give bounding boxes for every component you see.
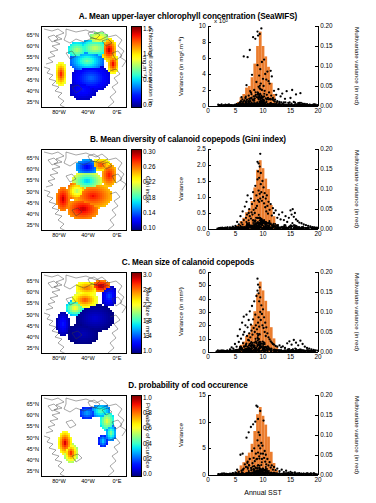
y-tick-label-left: 2.5 bbox=[197, 146, 206, 152]
x-tick-label: 10 bbox=[259, 477, 266, 483]
y-tick-left bbox=[208, 213, 211, 214]
y-axis-right-line bbox=[318, 149, 319, 229]
y-tick-left bbox=[208, 149, 211, 150]
map-lon-tick: 0°E bbox=[104, 479, 130, 485]
y-tick-label-right: 0.05 bbox=[320, 452, 332, 458]
x-tick bbox=[318, 472, 319, 475]
y-tick-right bbox=[315, 272, 318, 273]
x-tick bbox=[318, 349, 319, 352]
y-axis-label-right: Multivariate variance (in red) bbox=[350, 26, 364, 106]
x-tick bbox=[236, 472, 237, 475]
y-tick-left bbox=[208, 74, 211, 75]
x-tick bbox=[263, 103, 264, 106]
map-lat-tick: 40°N bbox=[13, 458, 39, 464]
x-tick-label: 0 bbox=[206, 108, 210, 114]
x-tick bbox=[236, 103, 237, 106]
map-lat-tick: 55°N bbox=[13, 178, 39, 184]
y-tick-label-left: 60 bbox=[199, 269, 206, 275]
y-tick-label-left: 1.5 bbox=[197, 178, 206, 184]
x-tick-label: 0 bbox=[206, 477, 210, 483]
y-axis-label-right: Multivariate variance (in red) bbox=[350, 149, 364, 229]
y-tick-label-right: 0.10 bbox=[320, 186, 332, 192]
x-tick bbox=[208, 349, 209, 352]
x-tick-label: 10 bbox=[259, 231, 266, 237]
map-lon-tick: 0°E bbox=[104, 110, 130, 116]
map-lon-tick: 80°W bbox=[46, 356, 72, 362]
y-tick-label-left: 20 bbox=[199, 322, 206, 328]
map-canvas bbox=[41, 149, 127, 231]
y-tick-label-right: 0.15 bbox=[320, 166, 332, 172]
map-lat-tick: 50°N bbox=[13, 190, 39, 196]
y-tick-label-left: 15 bbox=[199, 392, 206, 398]
y-tick-label-left: 6 bbox=[202, 55, 206, 61]
map-lon-tick: 80°W bbox=[46, 233, 72, 239]
map-lat-tick: 60°N bbox=[13, 167, 39, 173]
x-tick-label: 15 bbox=[287, 354, 294, 360]
map-lat-tick: 35°N bbox=[13, 469, 39, 475]
x-tick bbox=[208, 103, 209, 106]
colorbar-d: 1.00.80.60.40.20.0 bbox=[131, 395, 142, 477]
y-tick-left bbox=[208, 272, 211, 273]
y-tick-label-left: 1.0 bbox=[197, 194, 206, 200]
y-tick-label-left: 10 bbox=[199, 335, 206, 341]
y-tick-left bbox=[208, 339, 211, 340]
map-lat-tick: 35°N bbox=[13, 346, 39, 352]
panel-title: C. Mean size of calanoid copepods bbox=[0, 258, 376, 267]
x-tick bbox=[291, 103, 292, 106]
y-tick-right bbox=[315, 395, 318, 396]
y-tick-right bbox=[315, 332, 318, 333]
plot-canvas: 1510500.200.150.100.050.0005101520 bbox=[208, 395, 318, 475]
map-lon-tick: 40°W bbox=[75, 233, 101, 239]
colorbar-label: Probability of occurence bbox=[142, 395, 153, 477]
y-tick-label-right: 0.05 bbox=[320, 206, 332, 212]
y-tick-label-right: 0.05 bbox=[320, 329, 332, 335]
plot-canvas: 10864200.200.150.100.050.0005101520 bbox=[208, 26, 318, 106]
x-tick-label: 20 bbox=[314, 231, 321, 237]
x-tick-label: 20 bbox=[314, 477, 321, 483]
colorbar-label: Chlorophyll concentration (in mg.m⁻³) bbox=[142, 26, 153, 108]
map-lat-tick: 65°N bbox=[13, 279, 39, 285]
map-lat-tick: 35°N bbox=[13, 100, 39, 106]
scatter-d: 1510500.200.150.100.050.0005101520 bbox=[208, 395, 318, 475]
y-tick-left bbox=[208, 395, 211, 396]
y-tick-left bbox=[208, 197, 211, 198]
map-lat-tick: 35°N bbox=[13, 223, 39, 229]
x-tick-label: 15 bbox=[287, 477, 294, 483]
x-tick bbox=[318, 226, 319, 229]
y-tick-label-right: 0.05 bbox=[320, 83, 332, 89]
y-axis-left-line bbox=[208, 395, 209, 475]
y-tick-left bbox=[208, 58, 211, 59]
x-tick bbox=[318, 103, 319, 106]
y-tick-right bbox=[315, 86, 318, 87]
map-lat-tick: 45°N bbox=[13, 201, 39, 207]
y-tick-right bbox=[315, 66, 318, 67]
x-tick bbox=[236, 349, 237, 352]
y-tick-label-right: 0.15 bbox=[320, 289, 332, 295]
y-tick-label-left: 4 bbox=[202, 71, 206, 77]
scatter-a: 10864200.200.150.100.050.0005101520 bbox=[208, 26, 318, 106]
panel-title: B. Mean diversity of calanoid copepods (… bbox=[0, 135, 376, 144]
y-tick-right bbox=[315, 26, 318, 27]
figure-root: A. Mean upper-layer chlorophyll concentr… bbox=[0, 0, 376, 503]
y-axis-label-left: Variance bbox=[178, 395, 184, 475]
y-axis-right-line bbox=[318, 26, 319, 106]
axis-exponent: x 10² bbox=[214, 18, 228, 24]
y-tick-left bbox=[208, 448, 211, 449]
map-b: 65°N60°N55°N50°N45°N40°N35°N80°W40°W0°E bbox=[41, 149, 127, 231]
y-tick-label-left: 40 bbox=[199, 295, 206, 301]
x-tick-label: 5 bbox=[234, 477, 238, 483]
y-tick-right bbox=[315, 455, 318, 456]
y-tick-label-right: 0.20 bbox=[320, 392, 332, 398]
x-tick bbox=[263, 472, 264, 475]
y-tick-right bbox=[315, 312, 318, 313]
colorbar-c: 3.02.62.21.81.41.0 bbox=[131, 272, 142, 354]
x-tick bbox=[236, 226, 237, 229]
y-tick-label-right: 0.10 bbox=[320, 309, 332, 315]
y-tick-label-left: 5 bbox=[202, 445, 206, 451]
map-a: 65°N60°N55°N50°N45°N40°N35°N80°W40°W0°E bbox=[41, 26, 127, 108]
x-tick-label: 10 bbox=[259, 354, 266, 360]
y-tick-left bbox=[208, 42, 211, 43]
y-tick-label-left: 0.5 bbox=[197, 210, 206, 216]
map-lon-tick: 80°W bbox=[46, 479, 72, 485]
map-lon-tick: 40°W bbox=[75, 356, 101, 362]
